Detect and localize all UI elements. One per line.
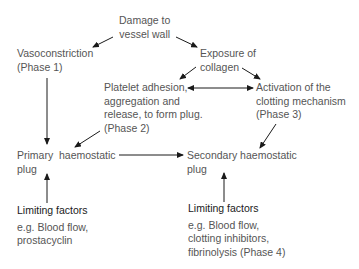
node-line: vessel wall <box>119 28 170 42</box>
node-line: prostacyclin <box>17 234 88 248</box>
node-line: Platelet adhesion, <box>104 81 203 95</box>
node-secondary-haemostatic-plug: Secondary haemostatic plug <box>187 149 297 176</box>
arrow-platelet-to-primary <box>75 131 100 147</box>
node-damage-to-vessel-wall: Damage to vessel wall <box>119 14 170 41</box>
node-primary-haemostatic-plug: Primary haemostatic plug <box>17 149 116 176</box>
node-line: Secondary haemostatic <box>187 149 297 163</box>
node-limiting-factors-right: Limiting factors e.g. Blood flow, clotti… <box>188 202 285 259</box>
limiting-factors-title: Limiting factors <box>17 204 88 218</box>
node-line: Primary haemostatic <box>17 149 116 163</box>
arrow-activation-to-secondary <box>260 124 276 148</box>
node-line: (Phase 1) <box>17 61 93 75</box>
node-line: Activation of the <box>256 81 346 95</box>
node-line: e.g. Blood flow, <box>17 221 88 235</box>
arrow-damage-to-vasoconstriction <box>93 37 113 47</box>
node-activation-clotting: Activation of the clotting mechanism (Ph… <box>256 81 346 122</box>
node-line: clotting mechanism <box>256 95 346 109</box>
node-vasoconstriction: Vasoconstriction (Phase 1) <box>17 47 93 74</box>
node-platelet-adhesion: Platelet adhesion, aggregation and relea… <box>104 81 203 135</box>
node-line: clotting inhibitors, <box>188 232 285 246</box>
node-line: collagen <box>200 61 256 75</box>
node-line: e.g. Blood flow, <box>188 219 285 233</box>
node-limiting-factors-left: Limiting factors e.g. Blood flow, prosta… <box>17 204 88 248</box>
limiting-factors-title: Limiting factors <box>188 202 285 216</box>
node-line: fibrinolysis (Phase 4) <box>188 246 285 260</box>
node-line: plug <box>187 163 297 177</box>
node-line: release, to form plug. <box>104 108 203 122</box>
node-line: Vasoconstriction <box>17 47 93 61</box>
arrow-exposure-to-platelet <box>180 67 196 79</box>
node-line: (Phase 2) <box>104 122 203 136</box>
node-exposure-of-collagen: Exposure of collagen <box>200 47 256 74</box>
node-line: Damage to <box>119 14 170 28</box>
arrow-damage-to-exposure <box>176 37 197 47</box>
node-line: aggregation and <box>104 95 203 109</box>
node-line: plug <box>17 163 116 177</box>
node-line: Exposure of <box>200 47 256 61</box>
node-line: (Phase 3) <box>256 108 346 122</box>
